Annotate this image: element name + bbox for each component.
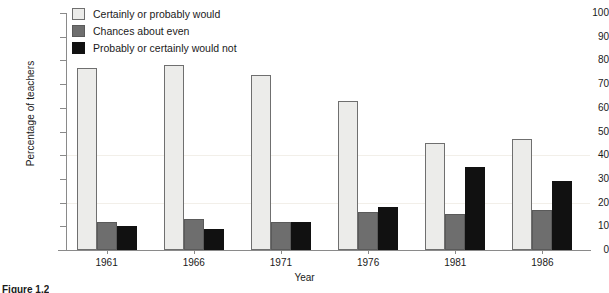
bar: [97, 222, 117, 250]
bar: [378, 207, 398, 250]
chart-legend: Certainly or probably wouldChances about…: [72, 6, 237, 57]
y-axis-tick-label: 100: [555, 8, 609, 18]
bar: [77, 68, 97, 250]
legend-swatch: [72, 42, 85, 54]
bar: [117, 226, 137, 250]
bar: [338, 101, 358, 250]
y-axis-tick-label: 40: [555, 150, 609, 160]
x-axis-tick: [107, 250, 108, 254]
y-axis-tick-label: 80: [555, 55, 609, 65]
y-axis-tick: [60, 203, 66, 204]
x-axis-title: Year: [0, 272, 609, 283]
x-axis-tick-label: 1981: [425, 257, 485, 268]
bar: [291, 222, 311, 250]
y-axis-tick-label: 30: [555, 174, 609, 184]
bar: [512, 139, 532, 250]
bar: [552, 181, 572, 250]
y-axis-tick: [60, 108, 66, 109]
bar: [465, 167, 485, 250]
bar: [204, 229, 224, 250]
bar-group: [338, 13, 398, 250]
x-axis-tick-label: 1966: [164, 257, 224, 268]
y-axis-tick: [60, 179, 66, 180]
y-axis-tick: [60, 226, 66, 227]
y-axis-tick: [60, 37, 66, 38]
bar-group: [251, 13, 311, 250]
bar: [425, 143, 445, 250]
bar: [164, 65, 184, 250]
y-axis-tick: [60, 60, 66, 61]
legend-swatch: [72, 8, 85, 20]
bar: [358, 212, 378, 250]
x-axis-tick: [194, 250, 195, 254]
y-axis-tick-label: 60: [555, 103, 609, 113]
bar: [251, 75, 271, 250]
bar: [532, 210, 552, 250]
y-axis-tick: [60, 13, 66, 14]
y-axis-tick: [60, 132, 66, 133]
bar: [445, 214, 465, 250]
x-axis-tick-label: 1961: [77, 257, 137, 268]
legend-swatch: [72, 25, 85, 37]
bar: [184, 219, 204, 250]
figure-caption: Figure 1.2: [2, 284, 49, 293]
y-axis-tick-label: 70: [555, 79, 609, 89]
legend-item: Probably or certainly would not: [72, 40, 237, 55]
legend-label: Chances about even: [93, 25, 189, 37]
y-axis-tick: [60, 84, 66, 85]
x-axis-line: [58, 250, 591, 251]
bar-chart-figure: Percentage of teachers Certainly or prob…: [0, 0, 609, 293]
legend-label: Certainly or probably would: [93, 8, 220, 20]
x-axis-tick: [281, 250, 282, 254]
bar-group: [425, 13, 485, 250]
y-axis-tick-label: 50: [555, 127, 609, 137]
legend-item: Chances about even: [72, 23, 237, 38]
x-axis-tick-label: 1986: [512, 257, 572, 268]
legend-item: Certainly or probably would: [72, 6, 237, 21]
x-axis-tick: [455, 250, 456, 254]
y-axis-tick-label: 20: [555, 198, 609, 208]
y-axis-tick-label: 90: [555, 32, 609, 42]
x-axis-tick: [542, 250, 543, 254]
x-axis-tick-label: 1976: [338, 257, 398, 268]
y-axis-tick-label: 10: [555, 221, 609, 231]
x-axis-tick-label: 1971: [251, 257, 311, 268]
bar: [271, 222, 291, 250]
y-axis-tick: [60, 250, 66, 251]
legend-label: Probably or certainly would not: [93, 42, 237, 54]
x-axis-tick: [368, 250, 369, 254]
y-axis-tick-label: 0: [555, 245, 609, 255]
y-axis-tick: [60, 155, 66, 156]
y-axis-title: Percentage of teachers: [25, 24, 36, 204]
